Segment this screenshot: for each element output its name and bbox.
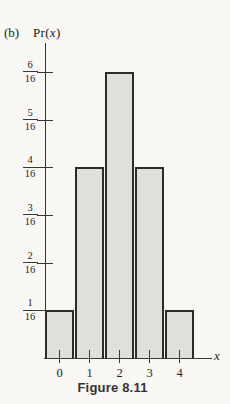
x-axis-label-var: x — [214, 348, 220, 363]
y-tick-label-1-16: 116 — [18, 297, 42, 323]
x-tick-label-3: 3 — [139, 366, 161, 381]
y-tick-label-4-16: 416 — [18, 154, 42, 180]
y-tick-label-3-16: 316 — [18, 202, 42, 228]
fraction-numerator: 1 — [23, 297, 38, 311]
x-tick-4 — [179, 350, 180, 363]
figure-8-11-panel-b: (b) Pr(x) 11621631641651661601234 x Figu… — [0, 0, 230, 404]
fraction-numerator: 2 — [23, 250, 38, 264]
x-tick-label-2: 2 — [109, 366, 131, 381]
fraction-denominator: 16 — [25, 215, 36, 227]
bar-x2 — [105, 72, 134, 358]
fraction-denominator: 16 — [25, 120, 36, 132]
fraction-denominator: 16 — [25, 263, 36, 275]
x-tick-2 — [119, 350, 120, 363]
figure-caption: Figure 8.11 — [40, 380, 185, 395]
fraction-numerator: 4 — [23, 154, 38, 168]
x-axis-label: x — [214, 348, 220, 364]
y-tick-label-5-16: 516 — [18, 107, 42, 133]
x-tick-label-4: 4 — [169, 366, 191, 381]
x-tick-3 — [149, 350, 150, 363]
x-tick-label-0: 0 — [49, 366, 71, 381]
x-tick-label-1: 1 — [79, 366, 101, 381]
fraction-denominator: 16 — [25, 311, 36, 323]
fraction-numerator: 6 — [23, 59, 38, 73]
y-axis-title-prefix: Pr( — [33, 25, 50, 40]
y-tick-label-2-16: 216 — [18, 250, 42, 276]
bar-x1 — [75, 167, 104, 358]
y-axis-title-suffix: ) — [56, 25, 61, 40]
x-tick-1 — [89, 350, 90, 363]
panel-label: (b) — [4, 25, 19, 41]
y-axis-title: Pr(x) — [33, 25, 61, 41]
fraction-denominator: 16 — [25, 72, 36, 84]
y-tick-label-6-16: 616 — [18, 59, 42, 85]
fraction-numerator: 3 — [23, 202, 38, 216]
x-tick-0 — [59, 350, 60, 363]
fraction-denominator: 16 — [25, 168, 36, 180]
x-axis — [44, 358, 212, 359]
bar-x3 — [135, 167, 164, 358]
fraction-numerator: 5 — [23, 107, 38, 121]
